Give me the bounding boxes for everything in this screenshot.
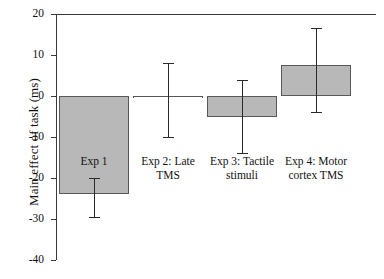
y-axis-tick-label: 10 [33, 49, 45, 61]
y-axis-tick: -10 [51, 137, 56, 138]
y-axis-line [56, 14, 57, 260]
error-bar-cap-top [163, 63, 174, 64]
y-axis-tick-label: 0 [38, 90, 44, 102]
y-axis-tick: 10 [51, 55, 56, 56]
y-axis-tick-label: -30 [29, 213, 44, 225]
error-bar-cap-bottom [163, 137, 174, 138]
bar-chart-figure: Main effect of task (ms) 20100-10-20-30-… [0, 0, 384, 279]
zero-baseline [56, 14, 376, 15]
y-axis-tick-label: -20 [29, 172, 44, 184]
error-bar-cap-top [89, 178, 100, 179]
y-axis-tick: 20 [51, 14, 56, 15]
error-bar-cap-bottom [237, 153, 248, 154]
error-bar-cap-top [237, 80, 248, 81]
y-axis-tick: -40 [51, 260, 56, 261]
y-axis-tick: 0 [51, 96, 56, 97]
y-axis-tick: -20 [51, 178, 56, 179]
category-label: Exp 1 [59, 155, 129, 168]
y-axis-tick-label: -40 [29, 254, 44, 266]
error-bar-cap-bottom [89, 217, 100, 218]
error-bar-line [242, 80, 243, 154]
error-bar-cap-bottom [311, 112, 322, 113]
error-bar-line [168, 63, 169, 137]
y-axis-tick-label: -10 [29, 131, 44, 143]
category-label: Exp 4: Motor cortex TMS [272, 155, 360, 182]
error-bar-cap-top [311, 28, 322, 29]
plot-area: 20100-10-20-30-40 [56, 14, 376, 260]
error-bar-line [94, 178, 95, 217]
error-bar-line [316, 28, 317, 112]
y-axis-tick-label: 20 [33, 8, 45, 20]
y-axis-tick: -30 [51, 219, 56, 220]
